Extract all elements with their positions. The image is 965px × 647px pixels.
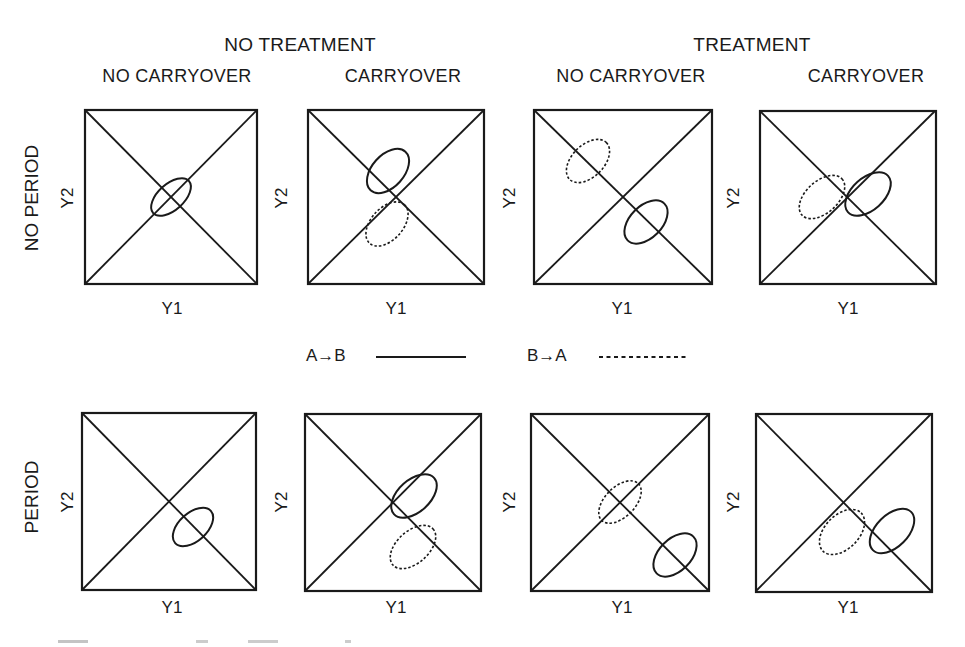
row-label-period: PERIOD — [21, 461, 43, 534]
ellipse-a-to-b — [359, 141, 418, 201]
panel-period-no-treatment-no-carryover — [81, 412, 257, 592]
column-header-2: CARRYOVER — [345, 66, 461, 87]
x-axis-label: Y1 — [612, 299, 633, 319]
ellipse-a-to-b — [616, 192, 675, 251]
legend-solid-line-icon — [376, 355, 468, 359]
x-axis-label: Y1 — [838, 598, 859, 618]
ellipse-a-to-b — [383, 466, 445, 526]
panel-no-period-no-treatment-no-carryover — [84, 109, 259, 285]
y-axis-label: Y2 — [58, 492, 78, 513]
x-axis-label: Y1 — [162, 299, 183, 319]
panel-no-period-treatment-no-carryover — [533, 109, 713, 285]
y-axis-label: Y2 — [724, 188, 744, 209]
x-axis-label: Y1 — [838, 299, 859, 319]
panel-no-period-treatment-carryover — [759, 110, 937, 285]
legend-dashed-line-icon — [599, 355, 689, 359]
row-label-no-period: NO PERIOD — [21, 145, 43, 252]
panel-period-treatment-no-carryover — [530, 413, 710, 593]
panel-no-period-no-treatment-carryover — [307, 109, 485, 285]
y-axis-label: Y2 — [272, 492, 292, 513]
legend-label-a-to-b: A→B — [306, 346, 346, 366]
ellipse-b-to-a — [811, 501, 873, 563]
y-axis-label: Y2 — [500, 188, 520, 209]
panel-period-no-treatment-carryover — [304, 413, 482, 592]
x-axis-label: Y1 — [612, 598, 633, 618]
x-axis-label: Y1 — [162, 598, 183, 618]
y-axis-label: Y2 — [724, 492, 744, 513]
cropped-caption — [0, 640, 965, 647]
ellipse-a-to-b — [645, 525, 704, 584]
ellipse-b-to-a — [358, 194, 417, 254]
y-axis-label: Y2 — [500, 492, 520, 513]
y-axis-label: Y2 — [272, 188, 292, 209]
ellipse-a-to-b — [837, 164, 899, 224]
ellipse-b-to-a — [382, 517, 444, 577]
legend-label-b-to-a: B→A — [527, 346, 567, 366]
group-header-no-treatment: NO TREATMENT — [224, 34, 376, 56]
y-axis-label: Y2 — [58, 188, 78, 209]
group-header-treatment: TREATMENT — [693, 34, 810, 56]
column-header-4: CARRYOVER — [808, 66, 924, 87]
ellipse-b-to-a — [558, 131, 617, 190]
x-axis-label: Y1 — [386, 598, 407, 618]
x-axis-label: Y1 — [386, 299, 407, 319]
column-header-3: NO CARRYOVER — [556, 66, 705, 87]
panel-period-treatment-carryover — [755, 413, 933, 593]
column-header-1: NO CARRYOVER — [102, 66, 251, 87]
ellipse-b-to-a — [791, 167, 853, 227]
